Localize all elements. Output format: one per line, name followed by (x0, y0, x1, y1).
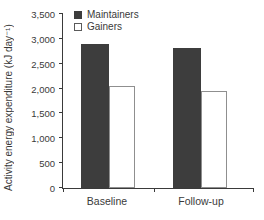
bar-gainers-follow-up (201, 91, 227, 188)
y-tick-mark (59, 13, 63, 14)
bar-gainers-baseline (109, 86, 135, 188)
bar-maintainers-follow-up (173, 48, 201, 188)
x-tick-2 (253, 188, 254, 192)
bar-maintainers-baseline (81, 44, 109, 188)
y-tick-label: 2,500 (31, 58, 55, 69)
y-tick-label: 2,000 (31, 83, 55, 94)
x-category-followup: Follow-up (178, 195, 224, 207)
y-tick-label: 3,500 (31, 9, 55, 20)
x-category-baseline: Baseline (87, 195, 127, 207)
y-tick-label: 1,000 (31, 133, 55, 144)
y-tick-label: 3,000 (31, 33, 55, 44)
y-tick-mark (59, 63, 63, 64)
bar-chart-figure: Activity energy expenditure (kJ day⁻¹) M… (0, 0, 264, 220)
y-tick-label: 1,500 (31, 108, 55, 119)
y-tick-mark (59, 38, 63, 39)
plot-area: 05001,0001,5002,0002,5003,0003,500 (62, 14, 254, 189)
y-tick-mark (59, 112, 63, 113)
y-tick-mark (59, 137, 63, 138)
x-tick-1 (154, 188, 155, 192)
y-tick-mark (59, 162, 63, 163)
x-axis-labels: Baseline Follow-up (0, 195, 264, 209)
y-tick-label: 500 (39, 158, 55, 169)
y-tick-mark (59, 88, 63, 89)
y-axis-title: Activity energy expenditure (kJ day⁻¹) (1, 10, 15, 206)
y-tick-label: 0 (50, 183, 55, 194)
x-tick-0 (63, 188, 64, 192)
